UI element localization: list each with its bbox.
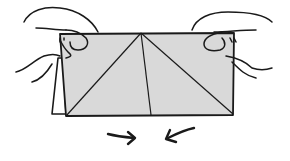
- arrow-right-icon: [108, 132, 135, 144]
- paper-front: [60, 33, 234, 116]
- arrow-left-icon: [166, 128, 194, 142]
- origami-illustration: Origami folding step: [0, 0, 290, 161]
